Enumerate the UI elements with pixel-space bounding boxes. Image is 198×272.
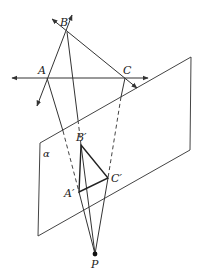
label-A: A <box>37 64 46 77</box>
label-P: P <box>90 258 99 271</box>
ray-B-to-plane <box>67 32 78 120</box>
label-alpha: α <box>43 148 50 159</box>
label-B-prime: B′ <box>75 131 87 144</box>
ray-C-hidden <box>108 97 121 178</box>
label-C-prime: C′ <box>111 172 122 185</box>
ray-Aprime-P <box>79 192 95 254</box>
ray-Cprime-P <box>95 178 108 254</box>
triangle-AprimeBprimeCprime <box>79 145 108 192</box>
label-B: B <box>59 16 68 29</box>
point-P <box>93 252 98 257</box>
projection-diagram: B A C B′ C′ A′ P α <box>0 0 198 272</box>
plane-alpha <box>38 57 191 236</box>
ray-A-to-plane <box>47 78 63 131</box>
label-A-prime: A′ <box>63 187 75 200</box>
ray-Bprime-P <box>81 145 95 254</box>
ray-C-to-plane <box>121 78 125 97</box>
label-C: C <box>123 64 132 77</box>
